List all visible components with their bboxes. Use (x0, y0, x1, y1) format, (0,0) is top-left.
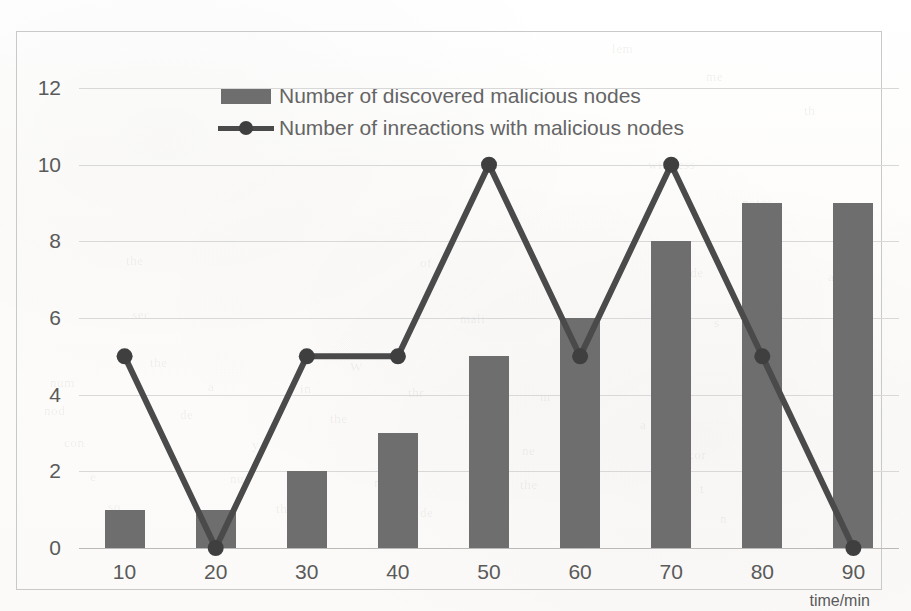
line-marker-dot-icon (299, 348, 315, 364)
x-tick-label: 60 (540, 560, 620, 584)
y-tick-label: 10 (21, 153, 61, 177)
chart-figure-frame: Number of discovered malicious nodes Num… (16, 31, 882, 590)
line-marker-dot-icon (117, 348, 133, 364)
line-marker-dot-icon (845, 540, 861, 556)
x-axis-title: time/min (809, 592, 869, 610)
line-marker-dot-icon (754, 348, 770, 364)
x-axis-line (79, 548, 899, 549)
y-tick-label: 6 (21, 306, 61, 330)
line-marker-dot-icon (663, 157, 679, 173)
y-tick-label: 8 (21, 229, 61, 253)
y-tick-label: 0 (21, 536, 61, 560)
line-series-group (79, 88, 899, 548)
line-path (125, 165, 854, 548)
x-tick-label: 40 (358, 560, 438, 584)
y-tick-label: 4 (21, 383, 61, 407)
plot-area: 024681012 102030405060708090 time/min (79, 88, 899, 548)
y-tick-label: 12 (21, 76, 61, 100)
y-tick-label: 2 (21, 459, 61, 483)
x-tick-label: 50 (449, 560, 529, 584)
line-marker-dot-icon (572, 348, 588, 364)
line-marker-dot-icon (481, 157, 497, 173)
line-marker-dot-icon (208, 540, 224, 556)
x-tick-label: 30 (267, 560, 347, 584)
x-tick-label: 70 (631, 560, 711, 584)
line-marker-dot-icon (390, 348, 406, 364)
x-tick-label: 10 (85, 560, 165, 584)
x-tick-label: 80 (722, 560, 802, 584)
x-tick-label: 90 (813, 560, 893, 584)
x-tick-label: 20 (176, 560, 256, 584)
